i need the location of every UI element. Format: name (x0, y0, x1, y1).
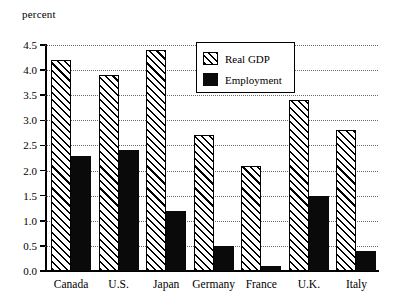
y-axis-unit-caption: percent (22, 8, 56, 20)
y-axis-tick-label: 4.5 (23, 39, 37, 51)
bar-real-gdp (99, 75, 119, 271)
bar-group (146, 45, 186, 271)
y-axis-tick-label: 4.0 (23, 64, 37, 76)
y-axis-tick (40, 270, 45, 272)
bar-chart: percent 4.54.03.53.02.52.01.51.00.50.0 R… (0, 0, 401, 302)
y-axis-tick (40, 94, 45, 96)
bar-employment (261, 266, 281, 271)
bar-group (51, 45, 91, 271)
y-axis-tick-label: 1.5 (23, 189, 37, 201)
x-axis-category-label: Germany (192, 278, 235, 290)
bar-group (99, 45, 139, 271)
y-axis-tick (40, 145, 45, 147)
bar-real-gdp (289, 100, 309, 271)
y-axis-tick-label: 2.5 (23, 139, 37, 151)
bar-group (336, 45, 376, 271)
y-axis-tick-label: 3.0 (23, 114, 37, 126)
y-axis-tick (40, 170, 45, 172)
y-axis-tick-label: 0.0 (23, 265, 37, 277)
legend-swatch-real-gdp (203, 52, 218, 65)
y-axis-tick (40, 220, 45, 222)
bar-real-gdp (51, 60, 71, 271)
y-axis-tick-label: 2.0 (23, 164, 37, 176)
y-axis-tick (40, 245, 45, 247)
bar-employment (119, 150, 139, 271)
bar-real-gdp (241, 166, 261, 271)
x-axis-category-label: Japan (153, 278, 179, 290)
legend-item-employment: Employment (203, 69, 294, 90)
y-axis-tick (40, 195, 45, 197)
y-axis-tick (40, 44, 45, 46)
bar-real-gdp (336, 130, 356, 271)
bar-employment (214, 246, 234, 271)
x-axis-category-label: Canada (54, 278, 88, 290)
x-axis-category-label: France (246, 278, 277, 290)
y-axis-tick (40, 120, 45, 122)
bar-real-gdp (146, 50, 166, 271)
x-axis-category-label: U.K. (298, 278, 320, 290)
y-axis-tick-label: 1.0 (23, 215, 37, 227)
legend-label-employment: Employment (225, 74, 282, 86)
legend-label-real-gdp: Real GDP (225, 53, 270, 65)
legend-item-real-gdp: Real GDP (203, 48, 294, 69)
chart-legend: Real GDP Employment (196, 42, 295, 93)
bar-employment (309, 196, 329, 271)
bar-employment (166, 211, 186, 271)
x-axis-category-label: Italy (346, 278, 367, 290)
y-axis-tick-label: 0.5 (23, 240, 37, 252)
bar-real-gdp (194, 135, 214, 271)
y-axis-tick-label: 3.5 (23, 89, 37, 101)
y-axis-tick (40, 69, 45, 71)
bar-employment (71, 156, 91, 272)
bar-employment (356, 251, 376, 271)
legend-swatch-employment (203, 73, 218, 86)
x-axis-category-label: U.S. (108, 278, 128, 290)
